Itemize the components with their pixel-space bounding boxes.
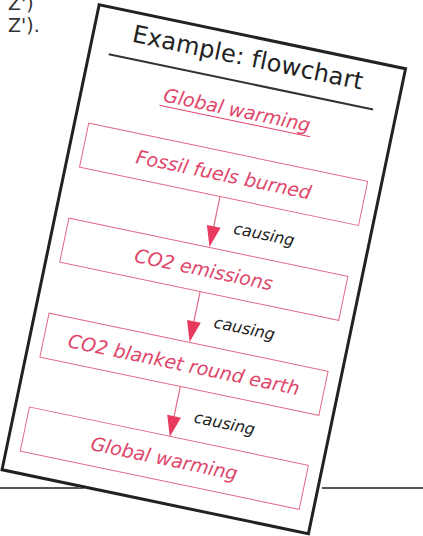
margin-text-line-1: Z') <box>8 0 34 13</box>
down-arrow-icon <box>200 195 230 249</box>
flowchart-card: Example: flowchart Global warming Fossil… <box>0 3 407 536</box>
down-arrow-icon <box>160 385 190 439</box>
down-arrow-icon <box>180 290 210 344</box>
margin-text-line-2: Z'). <box>8 16 40 35</box>
page-rule-right <box>322 487 423 489</box>
connector-label-3: causing <box>192 408 256 439</box>
connector-label-2: causing <box>212 313 276 344</box>
connector-label-1: causing <box>232 219 296 250</box>
page-rule-left <box>0 487 84 489</box>
